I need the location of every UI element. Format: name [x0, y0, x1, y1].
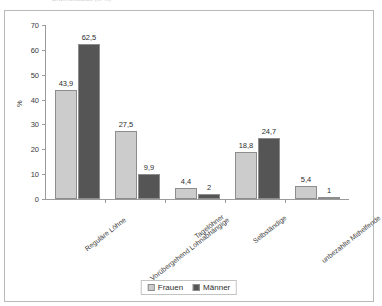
chart-frame: 010203040506070 43,962,527,59,94,4218,82… [4, 10, 374, 302]
y-tick-mark-50 [42, 75, 45, 76]
bar-männer-0[interactable] [78, 44, 100, 199]
category-label-1: Vorübergehend Lohnabhängige [149, 216, 231, 282]
y-axis-title: % [15, 100, 24, 107]
category-label-4: unbezahlte Mithelfende [320, 214, 381, 264]
x-axis-separator [165, 200, 166, 203]
bar-value-label: 24,7 [249, 127, 289, 136]
bar-value-label: 1 [309, 186, 349, 195]
y-tick-mark-40 [42, 100, 45, 101]
y-tick-label-50: 50 [15, 70, 39, 79]
category-label-3: Selbständige [252, 214, 288, 244]
y-tick-mark-10 [42, 174, 45, 175]
y-tick-label-0: 0 [15, 195, 39, 204]
chart-legend: FrauenMänner [141, 280, 237, 295]
bar-value-label: 2 [189, 183, 229, 192]
legend-label: Männer [203, 283, 230, 292]
x-axis-line [45, 199, 349, 200]
y-tick-label-10: 10 [15, 170, 39, 179]
y-tick-label-60: 60 [15, 45, 39, 54]
bar-value-label: 5,4 [286, 175, 326, 184]
bar-frauen-0[interactable] [55, 90, 77, 199]
y-tick-mark-20 [42, 149, 45, 150]
y-axis-line [45, 25, 46, 200]
bar-männer-4[interactable] [318, 197, 340, 199]
bar-value-label: 27,5 [106, 120, 146, 129]
bar-männer-2[interactable] [198, 194, 220, 199]
legend-swatch-icon [193, 284, 200, 291]
legend-label: Frauen [158, 283, 183, 292]
category-label-0: Reguläre Löhne [84, 216, 128, 252]
bar-männer-1[interactable] [138, 174, 160, 199]
y-tick-label-30: 30 [15, 120, 39, 129]
plot-area: 010203040506070 43,962,527,59,94,4218,82… [45, 25, 345, 200]
x-axis-separator [105, 200, 106, 203]
x-axis-separator [285, 200, 286, 203]
bar-männer-3[interactable] [258, 138, 280, 199]
y-tick-mark-0 [42, 199, 45, 200]
legend-item-männer[interactable]: Männer [193, 283, 230, 292]
legend-swatch-icon [148, 284, 155, 291]
legend-item-frauen[interactable]: Frauen [148, 283, 183, 292]
bar-value-label: 9,9 [129, 163, 169, 172]
bar-frauen-3[interactable] [235, 152, 257, 199]
y-tick-mark-70 [42, 25, 45, 26]
top-caption: Erwerbsstatus (in %) [52, 0, 111, 2]
y-tick-mark-30 [42, 124, 45, 125]
bar-value-label: 62,5 [69, 33, 109, 42]
y-tick-label-70: 70 [15, 21, 39, 30]
y-tick-mark-60 [42, 50, 45, 51]
y-tick-label-20: 20 [15, 145, 39, 154]
x-axis-separator [225, 200, 226, 203]
